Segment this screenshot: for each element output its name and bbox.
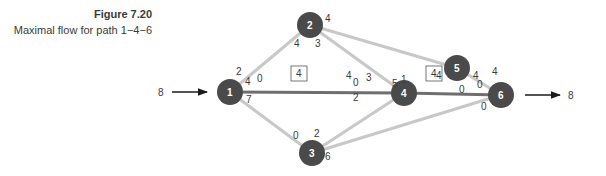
- cap-1-to-3: 7: [246, 94, 252, 105]
- node-4-label: 4: [401, 88, 407, 99]
- cap-2-to-4: 3: [315, 38, 321, 49]
- node-1-label: 1: [227, 87, 233, 98]
- node-5: 5: [444, 55, 470, 81]
- cap-6-to-3: 0: [481, 101, 487, 112]
- cap-4-to-3: 2: [353, 92, 359, 103]
- cap-3-to-6: 6: [325, 151, 331, 162]
- cap-5-to-6: 0: [459, 84, 465, 95]
- cap-1-to-4: 4: [245, 76, 251, 87]
- cap-4-to-6: 5: [392, 78, 398, 89]
- cap-4-to-6-residual: 1: [401, 74, 407, 85]
- node-2: 2: [297, 12, 323, 38]
- cap-2-to-5: 4: [325, 13, 331, 24]
- edge-1-2: [230, 25, 310, 92]
- cap-4-to-1: 4: [346, 70, 352, 81]
- node-6: 6: [488, 82, 514, 108]
- cap-6-to-5: 4: [492, 66, 498, 77]
- edge-4-6-highlighted: [404, 93, 501, 95]
- sink-value: 8: [568, 90, 574, 101]
- cap-4-to-2: 3: [366, 72, 372, 83]
- cap-5-to-2: 4: [436, 70, 442, 81]
- cap-3-to-4: 2: [314, 128, 320, 139]
- edge-2-5: [310, 25, 457, 68]
- cap-6-to-4-residual: 0: [477, 79, 483, 90]
- node-2-label: 2: [307, 20, 313, 31]
- network-diagram: 8 8 4 4 1 2 3 4 5 6 2 4 0 7 4 3 4 3 4 0 …: [0, 0, 606, 176]
- node-6-label: 6: [498, 90, 504, 101]
- cap-3-to-1: 0: [293, 130, 299, 141]
- node-5-label: 5: [454, 63, 460, 74]
- node-3-label: 3: [309, 148, 315, 159]
- flow-box-1-4-value: 4: [296, 68, 302, 79]
- cap-2-to-1: 4: [294, 38, 300, 49]
- source-value: 8: [158, 87, 164, 98]
- cap-4-to-1-residual: 0: [353, 77, 359, 88]
- node-3: 3: [299, 140, 325, 166]
- edge-1-4-highlighted: [230, 92, 404, 93]
- node-1: 1: [217, 79, 243, 105]
- cap-1-to-2: 2: [236, 66, 242, 77]
- cap-1-to-4-residual: 0: [257, 73, 263, 84]
- edge-1-3: [230, 92, 312, 153]
